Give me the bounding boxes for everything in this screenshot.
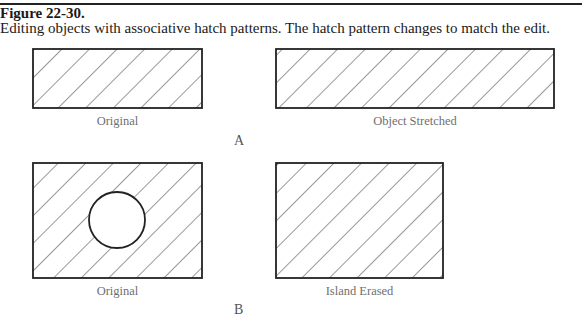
label-original-b: Original: [33, 284, 202, 299]
label-island-erased: Island Erased: [276, 284, 443, 299]
hatch-rect-island-erased: [276, 163, 443, 278]
hatch-drawings: [0, 0, 582, 321]
hatch-rect-original-a: [33, 49, 202, 108]
part-label-a: A: [234, 133, 244, 149]
label-original-a: Original: [33, 114, 202, 129]
label-object-stretched: Object Stretched: [276, 114, 554, 129]
hatch-rect-original-b: [33, 163, 202, 278]
hatch-rect-stretched: [276, 49, 554, 108]
island-circle: [89, 192, 145, 248]
part-label-b: B: [234, 302, 243, 318]
